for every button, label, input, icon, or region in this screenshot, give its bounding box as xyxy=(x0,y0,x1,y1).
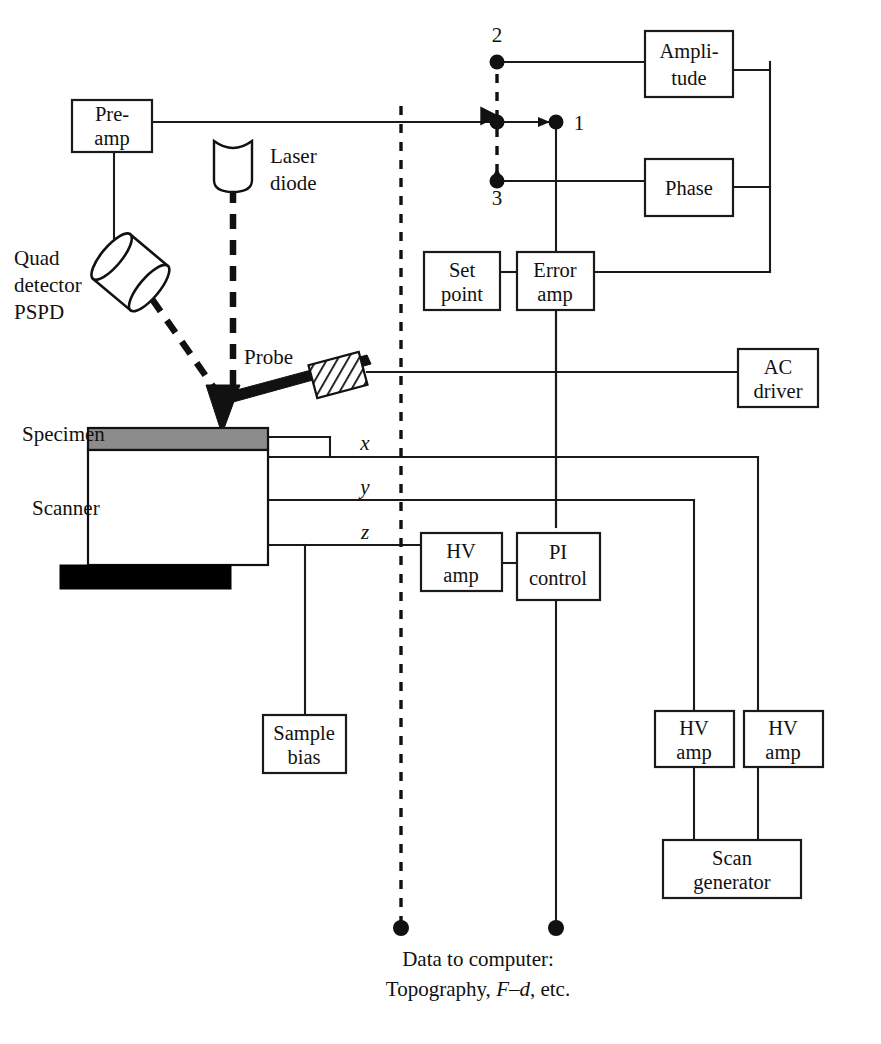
block-hvamp-z-line2: amp xyxy=(443,564,478,587)
caption-line2-pre: Topography, xyxy=(386,977,496,1001)
axis-label-z: z xyxy=(360,520,369,544)
caption-line2-italic: F–d xyxy=(495,977,530,1001)
block-hvamp-x-line2: amp xyxy=(765,741,800,764)
switch-node-3-label: 3 xyxy=(492,186,503,210)
scanner-label: Scanner xyxy=(32,496,100,520)
quad-detector-icon xyxy=(85,228,175,317)
laser-diode-label-line2: diode xyxy=(270,171,317,195)
block-hvamp-y-line1: HV xyxy=(679,717,709,739)
quad-detector-label-line1: Quad xyxy=(14,246,60,270)
block-setpoint-line1: Set xyxy=(449,259,476,281)
block-picontrol-line1: PI xyxy=(549,541,567,563)
quad-detector-label-line2: detector xyxy=(14,273,82,297)
switch-node-1-label: 1 xyxy=(574,111,585,135)
switch-node-2-label: 2 xyxy=(492,23,503,47)
axis-label-x: x xyxy=(359,431,370,455)
probe-label: Probe xyxy=(244,345,293,369)
block-hvamp-x-line1: HV xyxy=(768,717,798,739)
quad-detector-label-line3: PSPD xyxy=(14,300,64,324)
probe-tip xyxy=(206,385,240,434)
block-hvamp-y-line2: amp xyxy=(676,741,711,764)
scanner-body xyxy=(88,450,268,565)
cantilever-holder xyxy=(308,352,367,398)
block-preamp-line2: amp xyxy=(94,127,129,150)
block-phase-line1: Phase xyxy=(665,177,713,199)
laser-diode-label-line1: Laser xyxy=(270,144,317,168)
caption-line1: Data to computer: xyxy=(402,947,554,971)
data-node-dashed[interactable] xyxy=(393,920,409,936)
axis-label-y: y xyxy=(358,475,370,499)
caption-line2: Topography, F–d, etc. xyxy=(386,977,570,1001)
specimen-slab xyxy=(88,428,268,450)
afm-block-diagram: Pre- amp Ampli- tude Phase Set point Err… xyxy=(0,0,881,1044)
block-erroramp-line1: Error xyxy=(533,259,576,281)
block-amplitude-line1: Ampli- xyxy=(659,40,718,63)
block-acdriver-line1: AC xyxy=(764,356,792,378)
block-scangenerator-line1: Scan xyxy=(712,847,752,869)
laser-diode-icon xyxy=(214,141,252,192)
caption-line2-post: , etc. xyxy=(530,977,570,1001)
data-node-solid[interactable] xyxy=(548,920,564,936)
switch-node-2-dot[interactable] xyxy=(490,55,505,70)
switch-node-common-dot[interactable] xyxy=(490,115,505,130)
block-amplitude-line2: tude xyxy=(671,67,706,89)
block-picontrol-line2: control xyxy=(529,567,587,589)
switch-node-1-dot[interactable] xyxy=(549,115,564,130)
figure-canvas: Pre- amp Ampli- tude Phase Set point Err… xyxy=(0,0,881,1044)
block-acdriver-line2: driver xyxy=(754,380,803,402)
scanner-base xyxy=(60,565,231,589)
block-erroramp-line2: amp xyxy=(537,283,572,306)
block-setpoint-line2: point xyxy=(441,283,483,306)
block-preamp-line1: Pre- xyxy=(95,103,129,125)
block-samplebias-line1: Sample xyxy=(273,722,335,745)
block-hvamp-z-line1: HV xyxy=(446,540,476,562)
specimen-label: Specimen xyxy=(22,422,105,446)
block-samplebias-line2: bias xyxy=(287,746,320,768)
block-scangenerator-line2: generator xyxy=(693,871,771,894)
